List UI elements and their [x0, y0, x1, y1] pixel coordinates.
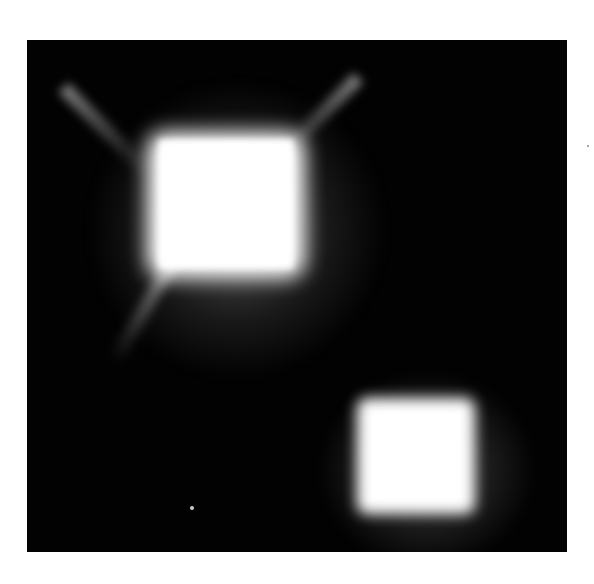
dark-image-frame: [27, 40, 567, 552]
margin-speck: [587, 145, 589, 147]
large-spot-core: [159, 140, 293, 268]
speck: [190, 506, 194, 510]
small-spot: [357, 398, 475, 514]
